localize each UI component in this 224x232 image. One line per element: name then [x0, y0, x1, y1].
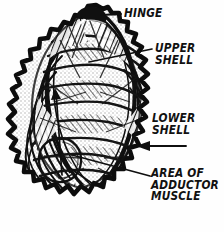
figure-canvas: HINGE UPPER SHELL LOWER SHELL AREA OF AD… [0, 0, 224, 232]
label-adductor-line-3: MUSCLE [151, 191, 219, 203]
label-lower-shell-line-2: SHELL [152, 125, 195, 137]
label-lower-shell: LOWER SHELL [152, 113, 195, 136]
label-hinge: HINGE [124, 8, 162, 20]
label-upper-shell: UPPER SHELL [155, 43, 195, 66]
leader-hinge [101, 14, 121, 15]
label-hinge-line-1: HINGE [124, 8, 162, 20]
label-adductor-muscle: AREA OF ADDUCTOR MUSCLE [151, 168, 219, 203]
label-upper-shell-line-2: SHELL [155, 55, 195, 67]
